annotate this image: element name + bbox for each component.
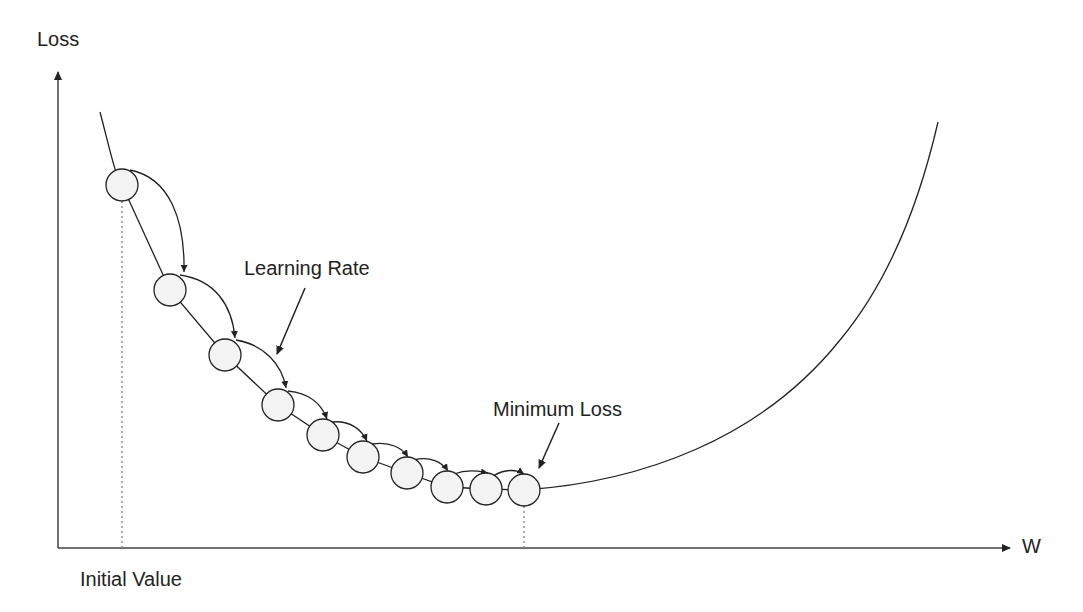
minimum-loss-pointer (539, 423, 559, 468)
step-point (209, 339, 241, 371)
step-point-minimum (508, 474, 540, 506)
minimum-loss-label: Minimum Loss (493, 398, 622, 421)
step-point (307, 419, 339, 451)
step-point (262, 389, 294, 421)
step-point (391, 457, 423, 489)
y-axis-label: Loss (37, 28, 79, 51)
initial-value-label: Initial Value (80, 568, 182, 591)
learning-rate-pointer (277, 288, 305, 354)
learning-rate-label: Learning Rate (244, 257, 370, 280)
loss-curve (100, 112, 938, 490)
step-point (470, 473, 502, 505)
step-point (431, 471, 463, 503)
step-point (154, 274, 186, 306)
step-point-initial (106, 169, 138, 201)
step-point (347, 441, 379, 473)
step-circles (106, 169, 540, 506)
x-axis-label: W (1022, 535, 1041, 558)
gradient-descent-diagram (0, 0, 1083, 612)
